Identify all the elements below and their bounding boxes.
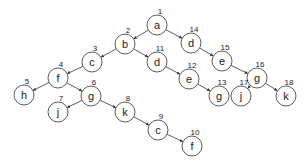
edge-1-14 [166,30,182,39]
edge-4-5 [33,82,49,90]
tree-diagram: a1b2c3f4h5g6j7k8c9f10d11e12g13d14e15g16j… [0,0,308,168]
node-number: 18 [285,78,294,87]
node-label: b [122,38,128,50]
edge-6-8 [100,100,116,107]
node-label: k [283,90,289,102]
node-number: 7 [59,94,64,103]
node-number: 12 [188,61,197,70]
edge-2-11 [134,49,149,57]
node-number: 14 [190,25,199,34]
tree-node-17: j17 [231,78,251,106]
tree-node-13: g13 [209,78,229,106]
node-number: 2 [126,26,131,35]
node-number: 5 [25,77,30,86]
tree-node-12: e12 [179,61,199,89]
node-number: 15 [221,43,230,52]
node-number: 11 [156,44,165,53]
node-number: 17 [240,78,249,87]
node-number: 3 [93,44,98,53]
node-label: g [254,72,260,84]
nodes-layer: a1b2c3f4h5g6j7k8c9f10d11e12g13d14e15g16j… [14,7,296,156]
node-label: h [21,89,27,101]
tree-node-14: d14 [181,25,201,53]
node-label: g [216,90,222,102]
tree-node-7: j7 [48,94,68,122]
node-label: c [89,56,95,68]
edge-14-15 [200,48,214,56]
tree-node-16: g16 [247,60,267,88]
edge-3-4 [67,66,83,73]
tree-node-9: c9 [148,112,168,140]
node-number: 10 [191,128,200,137]
node-label: d [154,56,160,68]
node-number: 4 [59,60,64,69]
edge-12-13 [198,84,211,91]
edge-1-2 [134,30,149,39]
node-label: a [154,19,161,31]
tree-node-8: k8 [115,94,135,122]
tree-node-1: a1 [147,7,167,35]
node-number: 6 [92,78,97,87]
node-number: 9 [159,112,164,121]
tree-node-4: f4 [48,60,68,88]
tree-node-6: g6 [81,78,101,106]
tree-node-5: h5 [14,77,34,105]
tree-node-10: f10 [182,128,202,156]
node-number: 16 [256,60,265,69]
node-number: 1 [158,7,163,16]
node-label: e [186,73,192,85]
node-label: k [122,106,128,118]
node-label: j [239,90,242,102]
node-label: j [56,106,59,118]
node-number: 8 [126,94,131,103]
edge-9-10 [167,134,183,141]
node-label: c [155,124,161,136]
node-number: 13 [218,78,227,87]
edge-4-6 [67,83,82,91]
tree-node-18: k18 [276,78,296,106]
tree-node-2: b2 [115,26,135,54]
node-label: d [188,37,194,49]
edge-11-12 [166,67,180,75]
edge-8-9 [134,117,149,125]
edge-15-16 [231,65,248,73]
edge-16-18 [265,83,277,90]
node-label: e [219,55,225,67]
node-label: g [88,90,94,102]
edge-6-7 [67,100,82,107]
tree-node-15: e15 [212,43,232,71]
tree-node-11: d11 [147,44,167,72]
edge-2-3 [101,49,116,57]
tree-node-3: c3 [82,44,102,72]
